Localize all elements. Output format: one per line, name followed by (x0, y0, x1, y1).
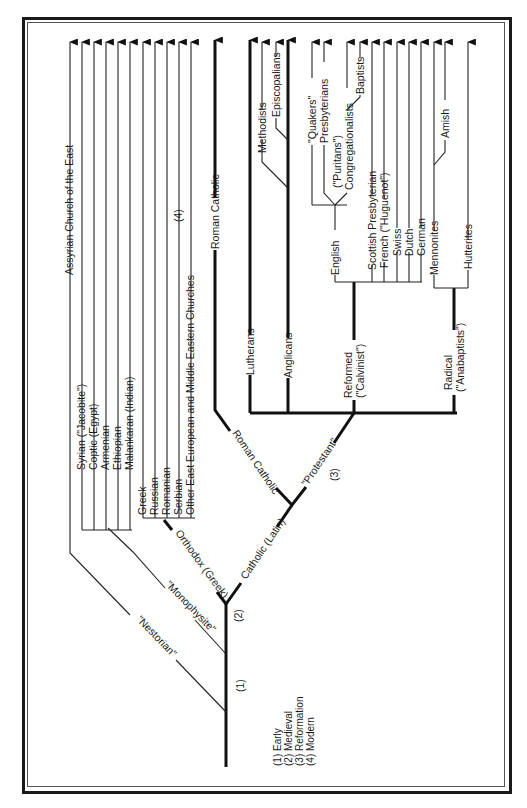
label-german: German (415, 218, 427, 256)
label-anglicans: Anglicans (282, 332, 294, 378)
label-roman-catholic: Roman Catholic (209, 174, 221, 249)
label-dutch: Dutch (403, 228, 415, 256)
label-assyrian: Assyrian Church of the East (63, 145, 75, 275)
label-amish: Amish (439, 109, 451, 138)
legend-early: (1) Early (272, 728, 283, 766)
label-period-1: (1) (234, 679, 246, 692)
label-coptic: Coptic (Egypt) (87, 403, 99, 470)
label-period-4: (4) (172, 209, 184, 222)
label-reformed: Reformed (342, 352, 354, 398)
label-presbyterians: Presbyterians (318, 79, 330, 143)
label-baptists: Baptists (354, 57, 366, 94)
label-calvinist: ("Calvinist") (354, 344, 366, 398)
label-romanian: Romanian (160, 467, 172, 515)
label-radical: Radical (442, 355, 454, 390)
label-episcopalians: Episcopalians (270, 52, 282, 117)
labels: Assyrian Church of the East Syrian ("Jac… (63, 52, 474, 766)
label-congregationalists: Congregationalists (343, 103, 355, 190)
label-scottish: Scottish Presbyterian (366, 171, 378, 270)
label-catholic: Catholic (Latin) (238, 516, 287, 581)
label-methodists: Methodists (256, 102, 268, 153)
label-mennonites: Mennonites (428, 221, 440, 275)
label-lutherans: Lutherans (244, 328, 256, 375)
legend-reformation: (3) Reformation (294, 697, 305, 766)
label-english: English (329, 240, 341, 275)
label-period-3: (3) (328, 468, 340, 481)
label-anabaptists: ("Anabaptists") (454, 323, 466, 392)
christianity-tree-diagram: Assyrian Church of the East Syrian ("Jac… (0, 0, 527, 808)
label-ethiopian: Ethiopian (111, 426, 123, 470)
label-russian: Russian (148, 477, 160, 515)
label-malankaran: Malankaran (Indian) (123, 377, 135, 470)
label-swiss: Swiss (391, 229, 403, 256)
label-armenian: Armenian (99, 425, 111, 470)
label-french: French ("Huguenot") (378, 172, 390, 268)
label-greek: Greek (136, 486, 148, 515)
label-puritans: ("Puritans") (331, 135, 343, 188)
label-hutterites: Hutterites (462, 224, 474, 269)
label-roman-catholic-branch: Roman Catholic (230, 427, 282, 496)
label-syrian: Syrian ("Jacobite") (75, 384, 87, 470)
legend-modern: (4) Modern (305, 717, 316, 766)
label-period-2: (2) (232, 609, 244, 622)
label-other-east: Other East European and Middle Eastern C… (184, 275, 196, 515)
legend: (1) Early (2) Medieval (3) Reformation (… (272, 697, 316, 766)
legend-medieval: (2) Medieval (283, 711, 294, 766)
label-monophysite: "Monophysite" (164, 578, 219, 635)
label-quakers: "Quakers" (306, 96, 318, 143)
label-nestorian: "Nestorian" (135, 613, 180, 659)
label-serbian: Serbian (172, 479, 184, 515)
